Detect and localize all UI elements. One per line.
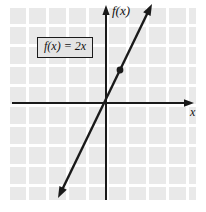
graph-vector-layer: [0, 0, 206, 212]
y-axis-label: f(x): [112, 4, 130, 17]
equation-label-box: f(x) = 2x: [37, 37, 93, 58]
function-graph-figure: f(x) x f(x) = 2x: [0, 0, 206, 212]
plotted-point: [117, 67, 124, 74]
x-axis-label: x: [190, 106, 195, 118]
